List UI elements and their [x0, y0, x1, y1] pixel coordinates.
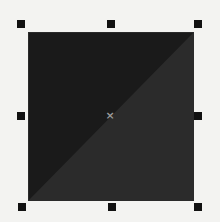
resize-handle-middle-left[interactable]: [17, 112, 25, 120]
center-x-marker-icon[interactable]: ×: [105, 111, 115, 121]
drawing-canvas[interactable]: ×: [0, 0, 220, 222]
resize-handle-top-left[interactable]: [17, 20, 25, 28]
resize-handle-bottom-left[interactable]: [18, 203, 26, 211]
resize-handle-top-right[interactable]: [194, 20, 202, 28]
resize-handle-bottom-center[interactable]: [108, 203, 116, 211]
resize-handle-top-center[interactable]: [107, 20, 115, 28]
resize-handle-middle-right[interactable]: [194, 112, 202, 120]
resize-handle-bottom-right[interactable]: [194, 203, 202, 211]
